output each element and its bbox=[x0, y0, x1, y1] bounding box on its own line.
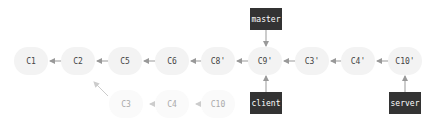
commit-c2: C2 bbox=[61, 47, 95, 75]
commit-c10-old: C10 bbox=[201, 90, 235, 118]
commit-c6: C6 bbox=[155, 47, 189, 75]
commit-c3-prime: C3' bbox=[295, 47, 329, 75]
commit-c1: C1 bbox=[14, 47, 48, 75]
commit-c8-prime: C8' bbox=[201, 47, 235, 75]
commit-c10-prime: C10' bbox=[388, 47, 422, 75]
commit-c4-old: C4 bbox=[155, 90, 189, 118]
commit-c9-prime: C9' bbox=[248, 47, 282, 75]
branch-client: client bbox=[250, 92, 282, 114]
branch-server: server bbox=[389, 92, 421, 114]
commit-c3-old: C3 bbox=[109, 90, 143, 118]
commit-c5: C5 bbox=[108, 47, 142, 75]
commit-c4-prime: C4' bbox=[341, 47, 375, 75]
branch-master: master bbox=[250, 8, 282, 30]
